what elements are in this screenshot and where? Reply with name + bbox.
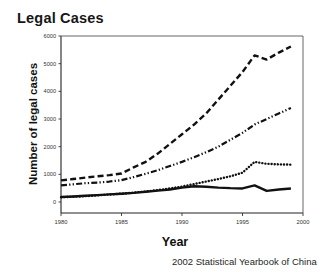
x-tick-label: 1980 [55, 219, 68, 225]
x-axis-ticks: 19801985199019952000 [55, 213, 310, 225]
y-tick-label: 1000 [44, 171, 56, 177]
y-tick-label: 5000 [44, 61, 56, 67]
series-dashed [61, 47, 291, 181]
y-tick-label: 6000 [44, 33, 56, 39]
y-tick-label: 3000 [44, 116, 56, 122]
x-tick-label: 1985 [115, 219, 128, 225]
series-dotted [61, 162, 291, 197]
y-axis-ticks: 0100020003000400050006000 [44, 33, 61, 205]
y-tick-label: 2000 [44, 144, 56, 150]
x-axis-label: Year [120, 235, 230, 249]
y-tick-label: 0 [53, 199, 56, 205]
series-dash-dot-dot [61, 108, 291, 185]
source-caption: 2002 Statistical Yearbook of China [172, 256, 317, 267]
data-series-layer [61, 47, 291, 198]
x-tick-label: 1995 [236, 219, 249, 225]
chart-figure: Legal Cases Number of legal cases Year 2… [0, 0, 335, 272]
y-axis-label: Number of legal cases [27, 49, 39, 199]
y-tick-label: 4000 [44, 88, 56, 94]
x-tick-label: 1990 [176, 219, 189, 225]
x-tick-label: 2000 [297, 219, 310, 225]
line-chart-plot: 0100020003000400050006000 19801985199019… [0, 0, 335, 272]
page-title: Legal Cases [17, 10, 104, 26]
